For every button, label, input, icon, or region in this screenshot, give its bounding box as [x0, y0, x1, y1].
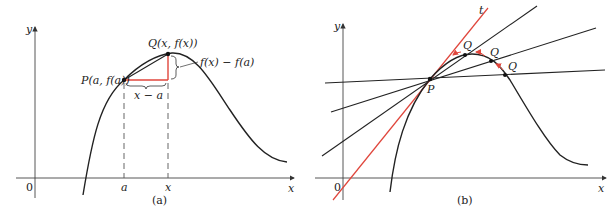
point-q3 [503, 73, 507, 77]
point-q3-label: Q [508, 60, 517, 73]
tick-a-label: a [121, 181, 128, 194]
panel-b: y x 0 t P Q Q Q (b) [315, 4, 606, 207]
tick-x-label: x [165, 181, 172, 194]
point-q2 [489, 59, 493, 63]
arrow-q1-to-p [453, 52, 461, 55]
point-p [428, 77, 432, 81]
rise-label: f(x) − f(a) [199, 56, 254, 69]
point-q [166, 52, 170, 56]
point-p-label: P(a, f(a)) [80, 74, 130, 87]
x-axis-label: x [288, 182, 295, 195]
figure: y x 0 P(a, f(a)) Q(x, f(x)) f(x) − f(a) … [0, 0, 616, 214]
secant-line-3 [325, 70, 605, 83]
panel-a: y x 0 P(a, f(a)) Q(x, f(x)) f(x) − f(a) … [16, 23, 295, 207]
caption-b: (b) [457, 194, 473, 207]
point-p-label: P [426, 83, 435, 96]
x-axis-label: x [598, 182, 605, 195]
tangent-label: t [479, 4, 484, 17]
point-q1 [463, 53, 467, 57]
brace-leader [180, 62, 198, 67]
secant-line [124, 54, 168, 80]
point-q-label: Q(x, f(x)) [148, 37, 198, 50]
curve-f [390, 54, 588, 192]
point-q2-label: Q [490, 46, 499, 59]
y-axis-label: y [333, 20, 341, 33]
y-axis-label: y [25, 23, 33, 36]
point-q1-label: Q [463, 39, 472, 52]
origin-label: 0 [26, 181, 33, 194]
run-label: x − a [134, 89, 163, 102]
caption-a: (a) [152, 194, 167, 207]
vertical-brace [171, 56, 179, 79]
